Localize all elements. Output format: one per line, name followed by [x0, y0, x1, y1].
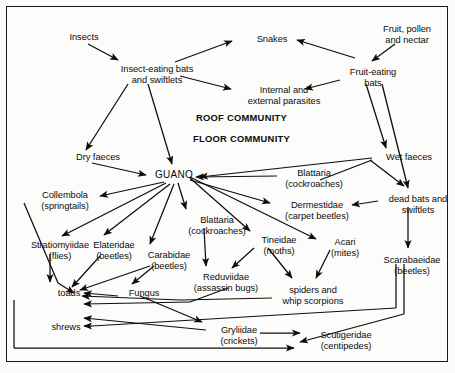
- node-line: toads: [52, 288, 86, 299]
- node-guano: GUANO: [152, 170, 196, 181]
- node-line: whip scorpions: [274, 296, 352, 307]
- node-line: Scarabaeidae: [375, 255, 449, 266]
- node-reduviidae: Reduviidae(assassin bugs): [186, 272, 266, 293]
- node-line: Blattaria: [182, 215, 252, 226]
- node-collembola: Collembola(springtails): [32, 190, 98, 211]
- node-line: bats: [340, 78, 406, 89]
- food-web-diagram: ROOF COMMUNITY FLOOR COMMUNITY InsectsIn…: [0, 0, 455, 373]
- node-line: shrews: [46, 322, 86, 333]
- node-line: (beetles): [140, 261, 198, 272]
- node-wet_faeces: Wet faeces: [378, 152, 440, 163]
- node-line: (beetles): [86, 251, 142, 262]
- node-shrews: shrews: [46, 322, 86, 333]
- node-line: (centipedes): [308, 341, 384, 352]
- node-line: (cockroaches): [182, 226, 252, 237]
- node-line: spiders and: [274, 285, 352, 296]
- node-line: Fungus: [122, 288, 166, 299]
- node-line: GUANO: [152, 170, 196, 181]
- node-line: Wet faeces: [378, 152, 440, 163]
- arrow-layer: [0, 0, 455, 373]
- node-line: and nectar: [371, 35, 443, 46]
- node-line: (cockroaches): [279, 179, 349, 190]
- node-line: (moths): [254, 246, 304, 257]
- node-line: (crickets): [212, 336, 266, 347]
- node-blattaria_right: Blattaria(cockroaches): [279, 168, 349, 189]
- node-line: Dermestidae: [277, 200, 357, 211]
- node-line: Dry faeces: [68, 152, 128, 163]
- node-line: dead bats and: [381, 194, 455, 205]
- node-line: (assassin bugs): [186, 283, 266, 294]
- node-gryliidae: Gryliidae(crickets): [212, 325, 266, 346]
- node-line: Reduviidae: [186, 272, 266, 283]
- roof-community-label: ROOF COMMUNITY: [196, 112, 287, 123]
- node-line: Blattaria: [279, 168, 349, 179]
- node-carabidae: Carabidae(beetles): [140, 250, 198, 271]
- node-fruit_pollen: Fruit, pollenand nectar: [371, 24, 443, 45]
- node-line: and swiftlets: [108, 75, 206, 86]
- node-insects: Insects: [58, 32, 110, 43]
- node-line: Internal and: [238, 85, 330, 96]
- node-line: Insects: [58, 32, 110, 43]
- node-line: Fruit, pollen: [371, 24, 443, 35]
- node-snakes: Snakes: [248, 34, 296, 45]
- floor-community-label: FLOOR COMMUNITY: [193, 133, 290, 144]
- node-tineidae: Tineidae(moths): [254, 235, 304, 256]
- node-line: (mites): [324, 248, 366, 259]
- node-line: Tineidae: [254, 235, 304, 246]
- node-line: Scutigeridae: [308, 330, 384, 341]
- node-dermestidae: Dermestidae(carpet beetles): [277, 200, 357, 221]
- node-dead_bats: dead bats andswiftlets: [381, 194, 455, 215]
- node-line: Elateridae: [86, 240, 142, 251]
- node-line: (springtails): [32, 201, 98, 212]
- node-line: external parasites: [238, 96, 330, 107]
- node-line: Carabidae: [140, 250, 198, 261]
- node-line: Collembola: [32, 190, 98, 201]
- node-acari: Acari(mites): [324, 237, 366, 258]
- node-parasites: Internal andexternal parasites: [238, 85, 330, 106]
- node-fruit_bats: Fruit-eatingbats: [340, 67, 406, 88]
- node-blattaria_mid: Blattaria(cockroaches): [182, 215, 252, 236]
- node-line: Acari: [324, 237, 366, 248]
- node-line: Fruit-eating: [340, 67, 406, 78]
- node-scarabaeidae: Scarabaeidae(beetles): [375, 255, 449, 276]
- node-toads: toads: [52, 288, 86, 299]
- node-insect_bats: Insect-eating batsand swiftlets: [108, 64, 206, 85]
- node-line: Snakes: [248, 34, 296, 45]
- node-line: (beetles): [375, 266, 449, 277]
- node-line: swiftlets: [381, 205, 455, 216]
- node-elateridae: Elateridae(beetles): [86, 240, 142, 261]
- node-dry_faeces: Dry faeces: [68, 152, 128, 163]
- node-line: Insect-eating bats: [108, 64, 206, 75]
- node-line: (carpet beetles): [277, 211, 357, 222]
- node-fungus: Fungus: [122, 288, 166, 299]
- node-spiders: spiders andwhip scorpions: [274, 285, 352, 306]
- node-line: Gryliidae: [212, 325, 266, 336]
- node-scutigeridae: Scutigeridae(centipedes): [308, 330, 384, 351]
